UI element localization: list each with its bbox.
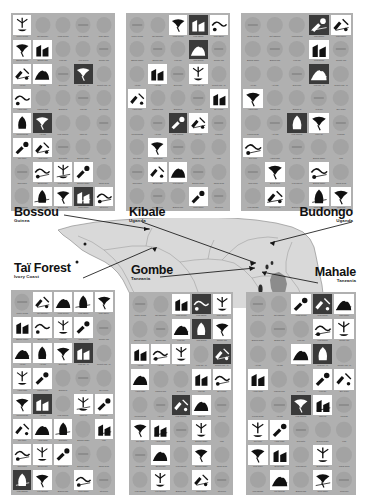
behaviour-grid-mahale: Pestle poundNut hammerFood poundLeaf nap… (246, 292, 356, 495)
behaviour-cell: Hand clasp (32, 418, 52, 443)
behaviour-cell: Pound broad (12, 112, 32, 137)
behaviour-cell: Branch shake (312, 419, 334, 444)
behaviour-label: Branch shake (189, 157, 207, 160)
behaviour-absent-icon (210, 187, 228, 207)
behaviour-absent-icon (270, 369, 290, 389)
behaviour-label: Termite fish (210, 59, 228, 62)
behaviour-icon (313, 294, 333, 314)
behaviour-label: Marrow pick (151, 390, 169, 393)
behaviour-icon (309, 187, 329, 207)
behaviour-label: Leaf sponge (169, 133, 187, 136)
behaviour-icon (54, 317, 72, 337)
behaviour-absent-icon (54, 15, 72, 35)
behaviour-icon (33, 162, 51, 182)
behaviour-absent-icon (243, 187, 263, 207)
behaviour-label: Branch slap (33, 59, 51, 62)
behaviour-label: Food pound (287, 35, 307, 38)
behaviour-cell: Branch shake (73, 443, 93, 468)
behaviour-label: Ant dip (13, 363, 31, 366)
behaviour-icon (192, 319, 210, 339)
behaviour-label: Hand clasp (248, 390, 268, 393)
behaviour-label: Index hit (74, 133, 92, 136)
behaviour-cell: Ant dip (12, 63, 32, 88)
behaviour-label: Termite fish - M (213, 364, 231, 367)
behaviour-label: Leaf dip (313, 390, 333, 393)
behaviour-cell: Branch di (171, 368, 191, 393)
behaviour-icon (95, 292, 113, 312)
behaviour-grid-gombe: Pestle poundNut hammerFood poundLeaf nap… (129, 292, 233, 495)
behaviour-absent-icon (287, 64, 307, 84)
behaviour-absent-icon (270, 395, 290, 415)
behaviour-cell: Index hit (308, 112, 330, 137)
behaviour-cell: Leaf squash (12, 469, 32, 494)
behaviour-label: Stem pull (334, 490, 354, 493)
behaviour-cell: Leaf groom (312, 318, 334, 343)
behaviour-label: Branch shake (192, 465, 210, 468)
behaviour-label: Hand clasp (33, 439, 51, 442)
behaviour-cell: Pestle pound (12, 14, 32, 39)
behaviour-icon (74, 394, 92, 414)
behaviour-cell: Hand clasp (242, 88, 264, 113)
behaviour-absent-icon (331, 64, 351, 84)
behaviour-label: Branch shake (128, 59, 146, 62)
behaviour-label: Shrub bend (210, 182, 228, 185)
behaviour-cell: Shrub bend (330, 161, 352, 186)
behaviour-cell: Branch di (290, 368, 312, 393)
behaviour-absent-icon (54, 138, 72, 158)
behaviour-label: Nut hammer (270, 314, 290, 317)
behaviour-label: Rock shake (74, 206, 92, 209)
behaviour-cell: Rock shake (73, 469, 93, 494)
behaviour-label: Leaf napkin (74, 35, 92, 38)
behaviour-absent-icon (334, 445, 354, 465)
behaviour-icon (192, 445, 210, 465)
behaviour-label: Branch slap (54, 490, 72, 493)
behaviour-label: Leaf groom (309, 59, 329, 62)
behaviour-label: Ant fish (265, 84, 285, 87)
behaviour-cell: Termite fish - M (94, 342, 114, 367)
behaviour-label: Marrow pick (33, 389, 51, 392)
behaviour-label: Ant fish (33, 84, 51, 87)
behaviour-label: Pull through (33, 490, 51, 493)
behaviour-absent-icon (265, 40, 285, 60)
behaviour-icon (54, 444, 72, 464)
behaviour-label: Leaf inspect (172, 465, 190, 468)
behaviour-cell: Expel/Stir (286, 63, 308, 88)
behaviour-icon (331, 187, 351, 207)
behaviour-label: Self tickle (243, 157, 263, 160)
behaviour-label: Branch shake (13, 59, 31, 62)
behaviour-cell: Club finger (247, 444, 269, 469)
behaviour-label: Leaf napkin (74, 312, 92, 315)
behaviour-icon (313, 369, 333, 389)
behaviour-cell: Branch slap (264, 39, 286, 64)
behaviour-cell: Rain dance (333, 293, 355, 318)
behaviour-cell: Dig water (168, 137, 188, 162)
behaviour-label: Club finger (243, 182, 263, 185)
behaviour-cell: Hand clasp (269, 419, 291, 444)
behaviour-label: Bee probe (331, 108, 351, 111)
behaviour-absent-icon (169, 138, 187, 158)
behaviour-icon (95, 187, 113, 207)
behaviour-cell: Leaf squash (247, 469, 269, 494)
behaviour-cell: Termite fish - M (330, 63, 352, 88)
behaviour-label: Branch shake (309, 182, 329, 185)
behaviour-label: Leaf clip - M (309, 84, 329, 87)
behaviour-cell: Marrow pick (264, 88, 286, 113)
behaviour-cell: Club finger (242, 161, 264, 186)
behaviour-cell: Branch slap (168, 186, 188, 211)
behaviour-label: Brush back (151, 465, 169, 468)
site-label-gombe: GombeTanzania (131, 264, 173, 282)
behaviour-cell: Branch di (53, 88, 73, 113)
behaviour-cell: Food pound (290, 293, 312, 318)
behaviour-cell: Leaf sponge (53, 393, 73, 418)
behaviour-label: Leaf clip - M (192, 364, 210, 367)
behaviour-label: Brush back (33, 465, 51, 468)
behaviour-cell: Bee probe (94, 367, 114, 392)
behaviour-cell: Self tickle (247, 419, 269, 444)
behaviour-label: Ant dip (128, 84, 146, 87)
behaviour-cell: Leaf dip (73, 367, 93, 392)
behaviour-cell: Index hit (73, 393, 93, 418)
behaviour-label: Fish (213, 440, 231, 443)
behaviour-cell: Leaf napkin (73, 291, 93, 316)
behaviour-icon (131, 344, 149, 364)
behaviour-label: Branch shake (248, 339, 268, 342)
